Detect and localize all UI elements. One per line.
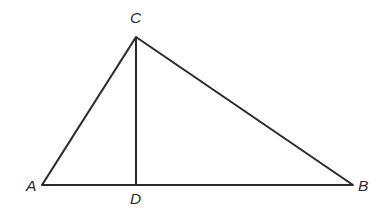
vertex-label-c: C (130, 10, 141, 26)
vertex-label-b: B (358, 178, 368, 194)
geometry-figure: C A D B (0, 0, 392, 216)
vertex-label-d: D (130, 191, 141, 207)
triangle-diagram-canvas (0, 0, 392, 216)
vertex-label-a: A (26, 178, 36, 194)
triangle-abc-outline (42, 37, 353, 185)
